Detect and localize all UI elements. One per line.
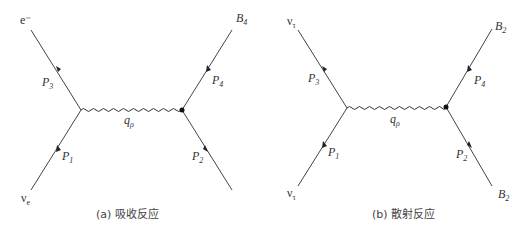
label-p3: P3 <box>41 75 53 91</box>
arrow-icon <box>206 65 211 72</box>
label-q: qρ <box>124 113 134 129</box>
label-b4: B4 <box>236 11 247 27</box>
label-b2-top: B2 <box>495 19 506 35</box>
label-p2: P2 <box>191 149 203 165</box>
arrow-icon <box>467 65 472 72</box>
photon-wavy-line <box>347 107 446 110</box>
photon-wavy-line <box>81 109 182 112</box>
label-electron: e⁻ <box>20 13 31 27</box>
arrow-icon <box>203 145 208 152</box>
vertex-dot <box>444 105 449 110</box>
label-b2-bottom: B2 <box>498 187 509 203</box>
vertex-dot <box>180 108 185 113</box>
label-nu-e: νe <box>21 191 30 207</box>
label-p2: P2 <box>455 147 467 163</box>
diagram-a: e⁻ B4 νe P3 P1 P4 P2 qρ (a) 吸收反应 <box>20 11 247 221</box>
fermion-line-p3 <box>31 30 81 110</box>
fermion-line-p2 <box>446 107 492 186</box>
label-p1: P1 <box>327 145 339 161</box>
label-p4: P4 <box>473 73 485 89</box>
feynman-diagrams: e⁻ B4 νe P3 P1 P4 P2 qρ (a) 吸收反应 ντ B2 ν… <box>0 0 524 238</box>
label-p4: P4 <box>211 73 223 89</box>
diagram-b: ντ B2 ντ B2 P3 P1 P4 P2 qρ (b) 散射反应 <box>287 14 509 221</box>
caption-b: (b) 散射反应 <box>372 207 435 221</box>
label-nu-tau-bottom: ντ <box>287 186 296 202</box>
caption-a: (a) 吸收反应 <box>96 207 159 221</box>
label-p3: P3 <box>307 71 319 87</box>
fermion-line-p3 <box>298 30 347 108</box>
arrow-icon <box>322 141 327 148</box>
label-p1: P1 <box>61 149 73 165</box>
label-nu-tau-top: ντ <box>287 14 296 30</box>
label-q: qρ <box>390 112 400 128</box>
fermion-line-p1 <box>31 110 81 190</box>
